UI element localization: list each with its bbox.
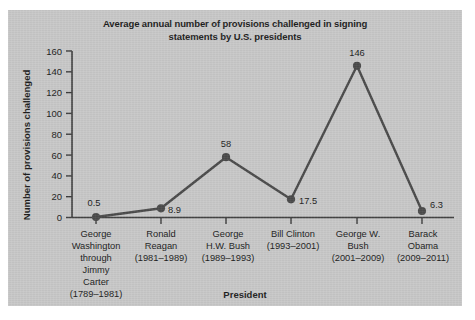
data-value-label: 0.5 bbox=[88, 198, 101, 208]
x-axis-title: President bbox=[223, 289, 267, 300]
data-point[interactable] bbox=[222, 153, 230, 161]
y-tick-label: 80 bbox=[51, 129, 62, 140]
cat-line: Ronald bbox=[146, 229, 175, 239]
data-value-label: 146 bbox=[349, 48, 365, 58]
y-axis-ticks bbox=[66, 51, 72, 218]
y-tick-label: 20 bbox=[51, 191, 62, 202]
cat-line: (1989–1993) bbox=[202, 253, 255, 263]
cat-line: Reagan bbox=[145, 241, 178, 251]
cat-line: (2001–2009) bbox=[332, 253, 385, 263]
y-tick-label: 100 bbox=[46, 108, 62, 119]
x-axis-ticks bbox=[96, 218, 422, 225]
data-value-label: 6.3 bbox=[430, 200, 443, 210]
y-axis-title: Number of provisions challenged bbox=[21, 70, 32, 221]
cat-line: (2009–2011) bbox=[397, 253, 449, 263]
data-value-label: 8.9 bbox=[168, 205, 181, 215]
cat-line: through bbox=[80, 253, 112, 263]
data-point[interactable] bbox=[92, 213, 100, 221]
y-tick-label: 40 bbox=[51, 170, 62, 181]
cat-line: Obama bbox=[408, 241, 439, 251]
chart-figure: Average annual number of provisions chal… bbox=[8, 10, 462, 306]
y-axis-tick-labels: 160 140 120 100 80 60 40 20 0 bbox=[46, 46, 62, 224]
cat-line: Washington bbox=[72, 241, 121, 251]
x-category-label-2: George H.W. Bush (1989–1993) bbox=[202, 229, 255, 263]
line-chart-plot: Number of provisions challenged 160 140 … bbox=[8, 10, 462, 306]
data-point[interactable] bbox=[353, 62, 361, 70]
data-line bbox=[96, 66, 422, 217]
x-category-label-1: Ronald Reagan (1981–1989) bbox=[135, 229, 188, 263]
data-point-markers bbox=[92, 62, 426, 221]
cat-line: Carter bbox=[83, 277, 109, 287]
cat-line: (1993–2001) bbox=[267, 241, 320, 251]
cat-line: George W. bbox=[336, 229, 380, 239]
y-tick-label: 0 bbox=[57, 212, 62, 223]
cat-line: H.W. Bush bbox=[206, 241, 250, 251]
x-category-label-0: George Washington through Jimmy Carter (… bbox=[70, 229, 123, 299]
x-category-label-5: Barack Obama (2009–2011) bbox=[397, 229, 449, 263]
y-tick-label: 160 bbox=[46, 46, 62, 57]
cat-line: Barack bbox=[409, 229, 438, 239]
y-tick-label: 60 bbox=[51, 150, 62, 161]
data-point[interactable] bbox=[418, 207, 426, 215]
data-value-label: 17.5 bbox=[299, 196, 317, 206]
cat-line: (1789–1981) bbox=[70, 289, 123, 299]
cat-line: Bush bbox=[347, 241, 368, 251]
cat-line: George bbox=[212, 229, 243, 239]
x-category-label-3: Bill Clinton (1993–2001) bbox=[267, 229, 320, 251]
cat-line: (1981–1989) bbox=[135, 253, 188, 263]
cat-line: Jimmy bbox=[83, 265, 110, 275]
data-value-label: 58 bbox=[221, 139, 231, 149]
data-value-labels: 0.5 8.9 58 17.5 146 6.3 bbox=[88, 48, 443, 215]
data-point[interactable] bbox=[287, 195, 295, 203]
y-tick-label: 120 bbox=[46, 87, 62, 98]
cat-line: Bill Clinton bbox=[271, 229, 315, 239]
data-point[interactable] bbox=[157, 204, 165, 212]
y-tick-label: 140 bbox=[46, 66, 62, 77]
cat-line: George bbox=[80, 229, 111, 239]
x-category-label-4: George W. Bush (2001–2009) bbox=[332, 229, 385, 263]
